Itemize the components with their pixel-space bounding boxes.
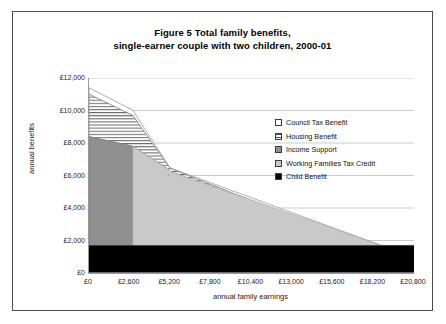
legend-swatch-icon: [275, 119, 282, 126]
legend-label: Working Families Tax Credit: [286, 159, 375, 168]
legend-label: Housing Benefit: [286, 132, 337, 141]
y-axis-tick-labels: £12,000 £10,000 £8,000 £6,000 £4,000 £2,…: [35, 78, 85, 273]
legend-label: Child Benefit: [286, 172, 327, 181]
legend-swatch-icon: [275, 133, 282, 140]
figure-frame: Figure 5 Total family benefits, single-e…: [12, 11, 433, 311]
y-tick-label: £6,000: [39, 172, 85, 179]
y-tick-label: £4,000: [39, 204, 85, 211]
y-tick-label: £0: [39, 269, 85, 276]
legend-item-income-support: Income Support: [275, 143, 425, 157]
legend-item-working-families-tax-credit: Working Families Tax Credit: [275, 157, 425, 171]
legend-swatch-icon: [275, 173, 282, 180]
legend-label: Income Support: [286, 145, 337, 154]
plot-wrapper: £12,000 £10,000 £8,000 £6,000 £4,000 £2,…: [13, 12, 434, 312]
area-income-support: [89, 137, 133, 246]
legend-swatch-icon: [275, 146, 282, 153]
x-axis-title: annual family earnings: [88, 292, 413, 301]
legend-item-housing-benefit: Housing Benefit: [275, 130, 425, 144]
y-tick-label: £12,000: [39, 74, 85, 81]
x-tick-label: £20,800: [386, 278, 440, 285]
y-tick-label: £2,000: [39, 237, 85, 244]
legend-item-council-tax-benefit: Council Tax Benefit: [275, 116, 425, 130]
y-tick-label: £8,000: [39, 139, 85, 146]
chart-legend: Council Tax Benefit Housing Benefit Inco…: [275, 116, 425, 184]
legend-label: Council Tax Benefit: [286, 118, 347, 127]
x-axis-tick-labels: £0 £2,600 £5,200 £7,800 £10,400 £13,000 …: [88, 278, 413, 290]
y-axis-title: annual benefits: [27, 109, 36, 189]
y-tick-label: £10,000: [39, 107, 85, 114]
legend-swatch-icon: [275, 160, 282, 167]
legend-item-child-benefit: Child Benefit: [275, 170, 425, 184]
area-child-benefit: [89, 245, 414, 273]
